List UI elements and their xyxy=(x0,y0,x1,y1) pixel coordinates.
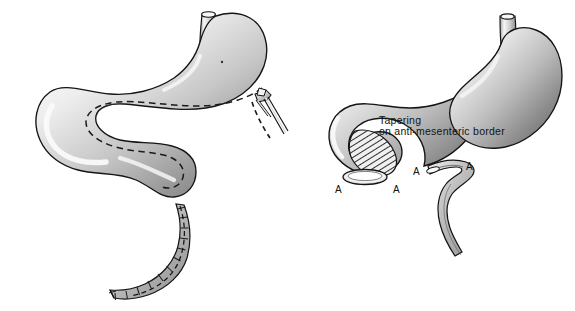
marker-a-2: A xyxy=(393,184,400,195)
marker-a-4: A xyxy=(466,161,473,172)
marker-a-3: A xyxy=(413,166,420,177)
marker-a-1: A xyxy=(335,184,342,195)
lumen-opening xyxy=(343,170,387,185)
caption-line-2: on anti-mesenteric border xyxy=(379,125,505,137)
left-stipple-dot xyxy=(221,61,223,63)
surgical-tapering-figure: Tapering on anti-mesenteric border A A A… xyxy=(0,0,575,311)
